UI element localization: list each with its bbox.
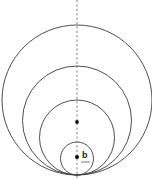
upper-center-dot: [75, 120, 79, 124]
diagram-canvas: b: [0, 0, 152, 195]
inner-glyph-label: b: [82, 150, 88, 160]
lower-center-dot: [75, 155, 79, 159]
nested-circles-figure: b: [0, 0, 152, 195]
